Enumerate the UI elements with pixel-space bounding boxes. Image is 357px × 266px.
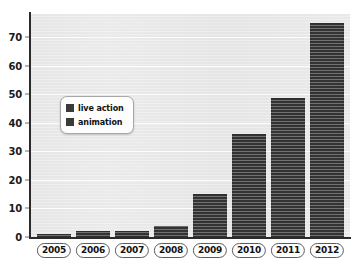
legend-item-live-action: live action	[66, 101, 128, 115]
y-tick-label-70: 70	[8, 32, 22, 43]
legend: live action animation	[60, 96, 134, 134]
gridline-70	[31, 37, 350, 38]
y-tick-label-50: 50	[8, 89, 22, 100]
legend-swatch-icon-animation	[66, 118, 74, 126]
x-tick-label-2008: 2008	[154, 243, 188, 258]
legend-swatch-icon-live-action	[66, 104, 74, 112]
x-tick-label-2007: 2007	[115, 243, 149, 258]
legend-item-animation: animation	[66, 115, 128, 129]
x-tick-label-2009: 2009	[193, 243, 227, 258]
x-tick-label-2005: 2005	[37, 243, 71, 258]
y-axis-line	[29, 12, 31, 239]
x-axis-line	[29, 237, 351, 239]
x-axis: 2005 2006 2007 2008 2009 2010 2011 2012	[31, 241, 350, 263]
legend-label-live-action: live action	[78, 104, 124, 113]
bar-2008	[154, 226, 188, 237]
bar-2010	[232, 134, 266, 237]
y-tick-label-60: 60	[8, 60, 22, 71]
x-tick-label-2012: 2012	[310, 243, 344, 258]
bar-2012	[310, 23, 344, 237]
x-tick-label-2011: 2011	[271, 243, 305, 258]
gridline-60	[31, 66, 350, 67]
y-tick-label-10: 10	[8, 203, 22, 214]
y-tick-label-40: 40	[8, 117, 22, 128]
y-tick-label-0: 0	[15, 232, 22, 243]
x-tick-label-2006: 2006	[76, 243, 110, 258]
y-axis: 70 60 50 40 30 20 10 0	[0, 0, 31, 266]
y-tick-label-20: 20	[8, 174, 22, 185]
legend-label-animation: animation	[78, 118, 122, 127]
gridline-50	[31, 94, 350, 95]
x-tick-label-2010: 2010	[232, 243, 266, 258]
bar-chart: 70 60 50 40 30 20 10 0	[0, 0, 357, 266]
bar-2011	[271, 98, 305, 237]
bar-2009	[193, 194, 227, 237]
y-tick-label-30: 30	[8, 146, 22, 157]
